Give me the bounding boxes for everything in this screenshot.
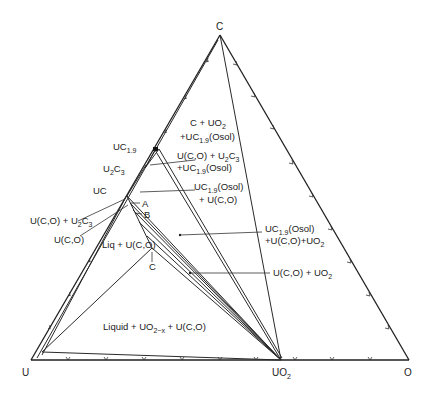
region-label-uco-left: U(C,O) xyxy=(54,234,84,245)
region-label-liquid: Liquid + UO2−x + U(C,O) xyxy=(103,321,206,334)
region-label-uco-u2c3-uc19-2: +UC1.9(Osol) xyxy=(177,162,232,175)
leader-lines xyxy=(78,160,270,274)
ternary-phase-diagram: C U O UO2 UC1.9 U2C3 UC A B C C + UO2 +U… xyxy=(0,0,431,393)
region-label-liq-uco: Liq + U(C,O) xyxy=(102,239,156,250)
vertex-label-o: O xyxy=(404,367,412,378)
region-label-c-uo2-uc19-2: +UC1.9(Osol) xyxy=(180,131,235,144)
phase-label-uc19: UC1.9 xyxy=(113,141,137,154)
uc-boundary-lines xyxy=(37,40,218,358)
region-label-uc19-uco-2: + U(C,O) xyxy=(199,194,237,205)
point-label-a: A xyxy=(142,198,149,209)
region-label-uco-u2c3-left: U(C,O) + U2C3 xyxy=(30,215,93,228)
point-label-c: C xyxy=(149,261,156,272)
vertex-label-c: C xyxy=(216,21,223,32)
region-label-c-uo2-uc19-1: C + UO2 xyxy=(190,117,226,130)
region-label-uc19-uco-1: UC1.9(Osol) xyxy=(194,181,243,194)
uco-uo2-tieline-fan xyxy=(127,196,281,360)
point-label-b: B xyxy=(144,209,150,220)
region-label-uco-uo2: U(C,O) + UO2 xyxy=(273,267,332,280)
region-label-uc19-uco-uo2-2: +U(C,O)+UO2 xyxy=(265,235,324,248)
phase-label-uc: UC xyxy=(93,185,107,196)
vertex-label-u: U xyxy=(22,367,29,378)
phase-label-u2c3: U2C3 xyxy=(103,163,125,176)
right-edge-ticks xyxy=(233,61,389,329)
vertex-label-uo2: UO2 xyxy=(272,367,291,380)
